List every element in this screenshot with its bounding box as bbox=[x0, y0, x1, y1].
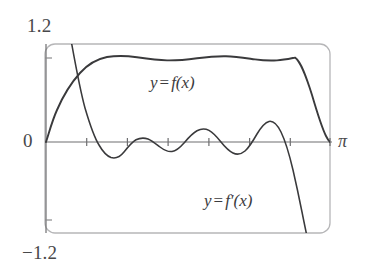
curve-label-f: y=f(x) bbox=[150, 74, 195, 91]
origin-label: 0 bbox=[23, 131, 33, 150]
y-axis-max-label: 1.2 bbox=[27, 16, 51, 35]
plot-svg bbox=[0, 0, 372, 269]
curve-f bbox=[46, 56, 330, 142]
figure-canvas: 1.2 −1.2 0 π y=f(x) y=f′(x) bbox=[0, 0, 372, 269]
x-axis-max-label: π bbox=[338, 132, 347, 150]
curve-label-fprime-expr: f′(x) bbox=[225, 191, 252, 210]
curve-f-prime bbox=[71, 40, 308, 241]
curve-label-f-equals: = bbox=[158, 73, 172, 92]
curve-label-f-expr: f(x) bbox=[171, 73, 195, 92]
y-axis-min-label: −1.2 bbox=[22, 243, 57, 262]
curve-label-f-y: y bbox=[150, 73, 158, 92]
curve-label-f-prime: y=f′(x) bbox=[204, 192, 252, 209]
curve-label-fprime-y: y bbox=[204, 191, 212, 210]
curve-label-fprime-equals: = bbox=[212, 191, 226, 210]
